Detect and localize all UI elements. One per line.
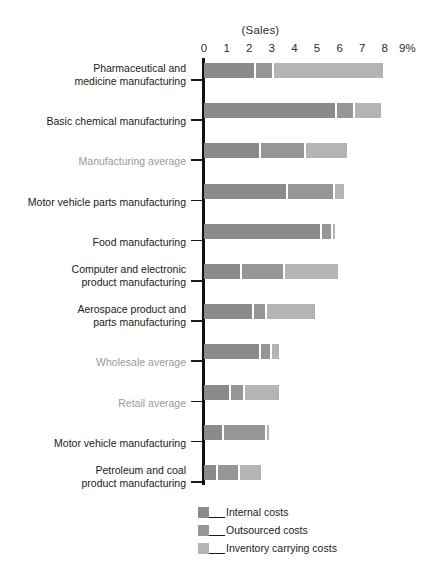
bar-segment-outsourced-costs: [218, 465, 239, 480]
bar-segment-inventory-carrying-costs: [274, 63, 383, 78]
x-axis-tick-1: 1: [223, 42, 229, 54]
bar-segment-outsourced-costs: [261, 344, 270, 359]
legend-label: Outsourced costs: [226, 524, 308, 536]
stacked-bar: [204, 184, 346, 199]
bar-segment-internal-costs: [204, 224, 320, 239]
bar-segment-internal-costs: [204, 465, 216, 480]
sales-cost-breakdown-chart: (Sales) 0123456789% Pharmaceutical and m…: [0, 0, 445, 579]
x-axis-tick-8: 8: [382, 42, 388, 54]
chart-title-text: (Sales): [242, 24, 280, 36]
bar-segment-outsourced-costs: [224, 425, 265, 440]
bar-segment-outsourced-costs: [261, 143, 304, 158]
stacked-bar: [204, 264, 340, 279]
legend-leader-line: [209, 553, 225, 555]
row-tick-mark: [191, 240, 202, 242]
row-tick-mark: [191, 320, 202, 322]
bar-segment-outsourced-costs: [337, 103, 353, 118]
bar-segment-outsourced-costs: [254, 304, 266, 319]
bar-segment-inventory-carrying-costs: [335, 184, 344, 199]
row-tick-mark: [191, 481, 202, 483]
chart-title: (Sales): [0, 24, 445, 36]
bar-segment-internal-costs: [204, 304, 252, 319]
bar-segment-internal-costs: [204, 344, 259, 359]
row-tick-mark: [191, 200, 202, 202]
row-tick-mark: [191, 79, 202, 81]
bar-segment-inventory-carrying-costs: [267, 304, 315, 319]
legend-label: Inventory carrying costs: [226, 542, 337, 554]
x-axis-tick-9pct: 9%: [399, 42, 416, 54]
stacked-bar: [204, 143, 349, 158]
x-axis-tick-6: 6: [336, 42, 342, 54]
row-label: Computer and electronic product manufact…: [16, 263, 186, 289]
stacked-bar: [204, 425, 270, 440]
bar-segment-inventory-carrying-costs: [267, 425, 269, 440]
legend-label: Internal costs: [226, 506, 288, 518]
row-label: Wholesale average: [16, 356, 186, 369]
x-axis-tick-5: 5: [314, 42, 320, 54]
row-label: Petroleum and coal product manufacturing: [16, 464, 186, 490]
x-axis-tick-3: 3: [269, 42, 275, 54]
x-axis-tick-7: 7: [359, 42, 365, 54]
row-tick-mark: [191, 401, 202, 403]
stacked-bar: [204, 103, 383, 118]
row-label: Aerospace product and parts manufacturin…: [16, 303, 186, 329]
legend-item: Inventory carrying costs: [198, 539, 337, 557]
legend-leader-line: [209, 517, 225, 519]
bar-segment-inventory-carrying-costs: [306, 143, 347, 158]
row-tick-mark: [191, 280, 202, 282]
bar-segment-inventory-carrying-costs: [240, 465, 261, 480]
legend-swatch-icon: [198, 543, 209, 554]
bar-segment-inventory-carrying-costs: [355, 103, 380, 118]
row-label: Motor vehicle manufacturing: [16, 437, 186, 450]
stacked-bar: [204, 344, 281, 359]
x-axis-tick-labels: 0123456789%: [0, 42, 445, 58]
stacked-bar: [204, 385, 281, 400]
stacked-bar: [204, 224, 337, 239]
row-tick-mark: [191, 360, 202, 362]
row-tick-mark: [191, 159, 202, 161]
bar-segment-inventory-carrying-costs: [245, 385, 279, 400]
legend-item: Outsourced costs: [198, 521, 337, 539]
bar-segment-internal-costs: [204, 385, 229, 400]
bar-segment-internal-costs: [204, 264, 240, 279]
row-label: Food manufacturing: [16, 236, 186, 249]
bar-segment-internal-costs: [204, 184, 286, 199]
bar-segment-outsourced-costs: [231, 385, 243, 400]
row-tick-mark: [191, 441, 202, 443]
bar-segment-outsourced-costs: [256, 63, 272, 78]
bar-segment-inventory-carrying-costs: [333, 224, 336, 239]
bar-segment-internal-costs: [204, 143, 259, 158]
stacked-bar: [204, 465, 263, 480]
x-axis-tick-4: 4: [291, 42, 297, 54]
row-label: Retail average: [16, 397, 186, 410]
legend-item: Internal costs: [198, 503, 337, 521]
legend-swatch-icon: [198, 525, 209, 536]
bar-segment-inventory-carrying-costs: [272, 344, 279, 359]
stacked-bar: [204, 63, 385, 78]
row-tick-mark: [191, 119, 202, 121]
x-axis-tick-2: 2: [246, 42, 252, 54]
bar-segment-internal-costs: [204, 425, 222, 440]
bar-segment-internal-costs: [204, 103, 335, 118]
row-label: Motor vehicle parts manufacturing: [16, 196, 186, 209]
legend-leader-line: [209, 535, 225, 537]
chart-legend: Internal costsOutsourced costsInventory …: [198, 503, 337, 557]
bar-segment-inventory-carrying-costs: [285, 264, 337, 279]
x-axis-tick-0: 0: [201, 42, 207, 54]
bar-segment-outsourced-costs: [322, 224, 331, 239]
row-label: Pharmaceutical and medicine manufacturin…: [16, 62, 186, 88]
row-label: Manufacturing average: [16, 155, 186, 168]
legend-swatch-icon: [198, 507, 209, 518]
stacked-bar: [204, 304, 317, 319]
bar-segment-outsourced-costs: [242, 264, 283, 279]
bar-segment-internal-costs: [204, 63, 254, 78]
bar-segment-outsourced-costs: [288, 184, 333, 199]
row-label: Basic chemical manufacturing: [16, 115, 186, 128]
